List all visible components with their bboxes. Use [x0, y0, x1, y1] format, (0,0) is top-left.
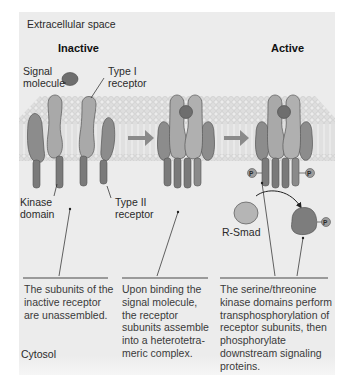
region-label-extracellular: Extracellular space	[27, 18, 116, 31]
label-kinase-2: domain	[20, 208, 54, 221]
caption-divider-1	[23, 277, 108, 279]
label-signal-molecule-2: molecule	[23, 77, 65, 90]
phosphate-label-left: P	[249, 168, 253, 181]
phosphorylation-arrow	[256, 191, 300, 206]
phosphate-label-smad: P	[323, 217, 327, 230]
region-label-cytosol: Cytosol	[21, 348, 56, 361]
label-kinase-1: Kinase	[20, 196, 52, 209]
caption-divider-3	[220, 277, 328, 279]
label-type1-1: Type I	[108, 65, 137, 78]
label-type2-2: receptor	[115, 208, 154, 221]
label-r-smad: R-Smad	[222, 226, 261, 239]
phospho-r-smad	[292, 208, 317, 235]
label-signal-molecule-1: Signal	[23, 65, 52, 78]
state-label-inactive: Inactive	[58, 42, 99, 55]
r-smad	[234, 202, 258, 224]
state-label-active: Active	[271, 42, 304, 55]
label-type1-2: receptor	[108, 77, 147, 90]
caption-inactive: The subunits of the inactive receptor ar…	[24, 283, 113, 321]
caption-active: The serine/threonine kinase domains perf…	[220, 283, 332, 373]
label-type2-1: Type II	[115, 196, 147, 209]
phosphate-label-right: P	[307, 168, 311, 181]
caption-divider-2	[122, 277, 208, 279]
caption-assembly: Upon binding the signal molecule, the re…	[122, 283, 209, 360]
